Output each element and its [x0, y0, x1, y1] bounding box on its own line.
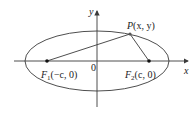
ellipse-diagram: y x 0 P(x, y) F1(−c, 0) F2(c, 0) [0, 0, 193, 119]
segment-f2-p [130, 34, 149, 61]
point-p-dot [128, 32, 131, 35]
segment-f1-p [47, 34, 130, 61]
x-axis-label: x [183, 65, 189, 76]
focus-f2-dot [147, 59, 151, 63]
origin-label: 0 [91, 62, 96, 73]
focus-f1-label: F1(−c, 0) [40, 69, 77, 82]
point-p-label: P(x, y) [126, 20, 155, 32]
focus-f2-label: F2(c, 0) [124, 69, 156, 82]
y-axis-label: y [88, 6, 94, 17]
focus-f1-dot [45, 59, 49, 63]
